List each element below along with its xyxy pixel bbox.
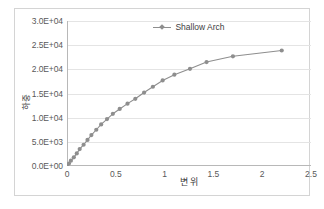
data-point-marker	[111, 112, 115, 116]
data-point-marker	[125, 102, 129, 106]
data-point-marker	[94, 128, 98, 132]
data-point-marker	[78, 147, 82, 151]
data-point-marker	[69, 159, 73, 163]
x-axis-title: 변 위	[67, 175, 311, 188]
data-point-marker	[142, 90, 146, 94]
data-point-marker	[81, 143, 85, 147]
series-plot	[67, 21, 311, 166]
y-tick-label: 0.0E+00	[32, 161, 63, 171]
y-axis-title: 하중	[19, 94, 31, 110]
y-tick-label: 1.0E+04	[32, 113, 63, 123]
y-tick-label: 1.5E+04	[32, 89, 63, 99]
data-point-marker	[280, 48, 284, 52]
data-point-marker	[89, 133, 93, 137]
data-point-marker	[99, 122, 103, 126]
data-point-marker	[72, 155, 76, 159]
chart-frame: 하중 0.0E+005.0E+031.0E+041.5E+042.0E+042.…	[14, 8, 310, 196]
y-tick-label: 2.0E+04	[32, 64, 63, 74]
data-point-marker	[172, 73, 176, 77]
data-point-marker	[133, 97, 137, 101]
data-point-marker	[188, 67, 192, 71]
y-tick-label: 3.0E+04	[32, 16, 63, 26]
data-point-marker	[118, 107, 122, 111]
plot-inner: 0.0E+005.0E+031.0E+041.5E+042.0E+042.5E+…	[67, 21, 311, 166]
data-point-marker	[231, 54, 235, 58]
y-tick-label: 2.5E+04	[32, 40, 63, 50]
data-point-marker	[161, 78, 165, 82]
data-point-marker	[85, 138, 89, 142]
data-point-marker	[204, 60, 208, 64]
data-point-marker	[105, 117, 109, 121]
data-point-marker	[75, 151, 79, 155]
y-tick-label: 5.0E+03	[32, 137, 63, 147]
series-line	[67, 50, 282, 166]
plot-area: 0.0E+005.0E+031.0E+041.5E+042.0E+042.5E+…	[67, 21, 311, 166]
data-point-marker	[151, 85, 155, 89]
